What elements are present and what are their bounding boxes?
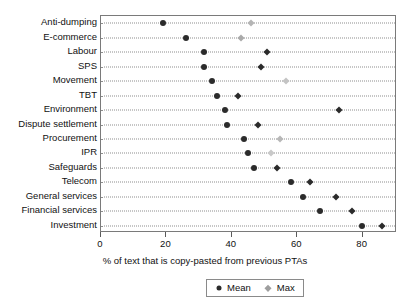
- data-point-max: [335, 106, 342, 113]
- y-axis-tick-label: Dispute settlement: [1, 119, 97, 129]
- y-axis-tick-label: Anti-dumping: [1, 17, 97, 27]
- x-axis-title: % of text that is copy-pasted from previ…: [0, 255, 410, 266]
- legend-label-max: Max: [277, 282, 295, 293]
- gridline-row: [101, 225, 395, 227]
- y-axis-tick-label: Movement: [1, 75, 97, 85]
- data-point-max: [378, 222, 385, 229]
- gridline-row: [101, 196, 395, 198]
- y-axis-tick-label: TBT: [1, 90, 97, 100]
- gridline-row: [101, 124, 395, 126]
- y-axis-tick-label: General services: [1, 191, 97, 201]
- data-point-max: [332, 193, 339, 200]
- data-point-mean: [201, 64, 207, 70]
- y-axis-tick-label: Procurement: [1, 133, 97, 143]
- gridline-row: [101, 110, 395, 112]
- gridline-row: [101, 52, 395, 54]
- x-axis-tick: [165, 232, 166, 237]
- legend-entry-mean: Mean: [215, 282, 251, 293]
- data-point-mean: [288, 179, 294, 185]
- data-point-mean: [160, 20, 166, 26]
- data-point-max: [237, 34, 244, 41]
- x-axis-tick: [296, 232, 297, 237]
- data-point-max: [254, 121, 261, 128]
- legend-entry-max: Max: [265, 282, 295, 293]
- gridline-row: [101, 167, 395, 169]
- y-axis-tick-label: Financial services: [1, 205, 97, 215]
- data-point-mean: [183, 35, 189, 41]
- data-point-mean: [300, 194, 306, 200]
- gridline-row: [101, 95, 395, 97]
- data-point-mean: [245, 150, 251, 156]
- data-point-max: [257, 63, 264, 70]
- y-axis-tick-label: SPS: [1, 61, 97, 71]
- max-diamond-marker-icon: [265, 284, 272, 291]
- y-axis-tick-label: Safeguards: [1, 162, 97, 172]
- x-axis-tick: [362, 232, 363, 237]
- y-axis-tick-label: Investment: [1, 220, 97, 230]
- data-point-max: [263, 49, 270, 56]
- gridline-row: [101, 66, 395, 68]
- data-point-mean: [317, 208, 323, 214]
- data-point-mean: [201, 49, 207, 55]
- data-point-mean: [209, 78, 215, 84]
- plot-area: [100, 15, 396, 232]
- x-axis-tick-label: 20: [160, 238, 171, 249]
- x-axis-tick-label: 80: [356, 238, 367, 249]
- x-axis-tick-label: 0: [97, 238, 102, 249]
- data-point-max: [234, 92, 241, 99]
- data-point-mean: [222, 107, 228, 113]
- y-axis-tick-label: Environment: [1, 104, 97, 114]
- mean-circle-marker-icon: [215, 284, 222, 291]
- chart-figure: Anti-dumpingE-commerceLabourSPSMovementT…: [0, 0, 410, 303]
- data-point-max: [276, 135, 283, 142]
- y-axis-tick-label: Telecom: [1, 176, 97, 186]
- x-axis-tick-label: 60: [291, 238, 302, 249]
- data-point-max: [282, 78, 289, 85]
- data-point-max: [348, 208, 355, 215]
- y-axis-tick-label: Labour: [1, 46, 97, 56]
- x-axis: 020406080: [100, 232, 396, 238]
- gridline-row: [101, 138, 395, 140]
- x-axis-tick-label: 40: [226, 238, 237, 249]
- data-point-max: [273, 164, 280, 171]
- y-axis-tick-label: E-commerce: [1, 32, 97, 42]
- data-point-max: [306, 179, 313, 186]
- data-point-mean: [251, 165, 257, 171]
- x-axis-tick: [231, 232, 232, 237]
- y-axis-labels: Anti-dumpingE-commerceLabourSPSMovementT…: [0, 15, 97, 232]
- gridline-row: [101, 37, 395, 39]
- data-point-mean: [224, 122, 230, 128]
- chart-legend: Mean Max: [206, 279, 304, 297]
- data-point-mean: [359, 223, 365, 229]
- data-point-max: [248, 20, 255, 27]
- y-axis-tick-label: IPR: [1, 147, 97, 157]
- x-axis-tick: [100, 232, 101, 237]
- data-point-max: [267, 150, 274, 157]
- data-point-mean: [241, 136, 247, 142]
- gridline-row: [101, 81, 395, 83]
- data-point-mean: [214, 93, 220, 99]
- gridline-row: [101, 182, 395, 184]
- legend-label-mean: Mean: [227, 282, 251, 293]
